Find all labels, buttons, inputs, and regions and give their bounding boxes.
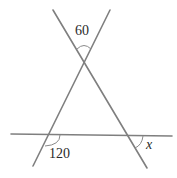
line-b: [33, 10, 110, 166]
geometry-diagram: 60 120 x: [0, 0, 177, 178]
angle-label-top: 60: [75, 24, 89, 38]
angle-label-x: x: [146, 138, 152, 152]
angle-arc-top: [77, 46, 91, 50]
angle-arc-bottom-right: [135, 136, 143, 148]
angle-label-bottom-left: 120: [49, 147, 70, 161]
line-a: [53, 10, 147, 168]
horizontal-line: [11, 134, 172, 136]
